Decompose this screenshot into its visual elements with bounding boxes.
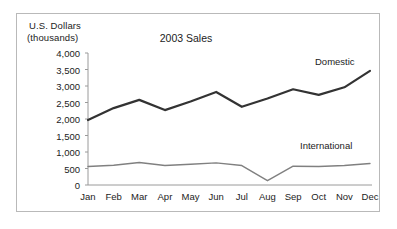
- series-line-international: [88, 163, 370, 181]
- plot-area: [0, 0, 397, 229]
- series-line-domestic: [88, 71, 370, 120]
- chart-figure: U.S. Dollars (thousands) 2003 Sales Dome…: [0, 0, 397, 229]
